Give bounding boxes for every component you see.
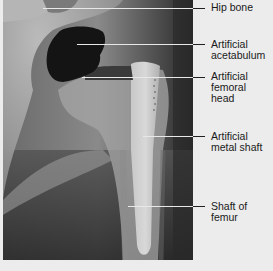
label-artificial-femoral-head: Artificial femoral head [211, 71, 248, 104]
label-shaft-of-femur: Shaft of femur [211, 201, 247, 223]
xray-illustration [3, 0, 193, 260]
label-artificial-metal-shaft: Artificial metal shaft [211, 131, 262, 153]
leader-line-artificial-metal-shaft [143, 136, 205, 137]
leader-line-artificial-acetabulum [77, 44, 205, 45]
leader-line-hip-bone [43, 8, 205, 9]
leader-line-artificial-femoral-head [82, 77, 205, 78]
label-hip-bone: Hip bone [211, 2, 253, 13]
leader-line-shaft-of-femur [128, 206, 205, 207]
label-artificial-acetabulum: Artificial acetabulum [211, 39, 265, 61]
xray-image [3, 0, 193, 260]
